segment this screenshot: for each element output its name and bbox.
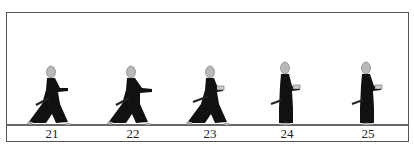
figure-21 <box>16 60 86 130</box>
standing-figure-icon <box>250 60 320 130</box>
figure-22 <box>96 60 166 130</box>
step-label: 25 <box>348 127 388 141</box>
figure-25 <box>331 60 401 130</box>
wide-stance-figure-icon <box>16 60 86 130</box>
wide-stance-figure-icon <box>175 60 245 130</box>
step-label: 24 <box>267 127 307 141</box>
figure-23 <box>175 60 245 130</box>
step-label: 22 <box>113 127 153 141</box>
standing-figure-icon <box>331 60 401 130</box>
wide-stance-figure-icon <box>96 60 166 130</box>
figure-24 <box>250 60 320 130</box>
step-label: 21 <box>32 127 72 141</box>
step-label: 23 <box>190 127 230 141</box>
